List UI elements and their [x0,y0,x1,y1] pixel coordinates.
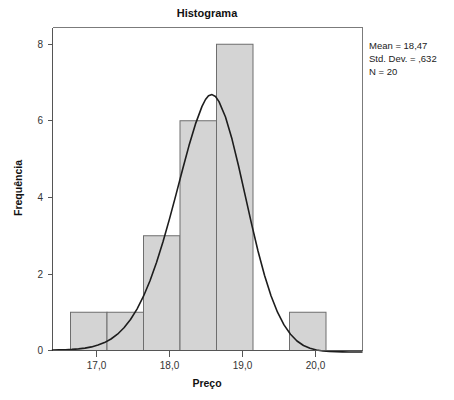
statistic-n: N = 20 [369,66,397,77]
statistic-std-dev: Std. Dev. = ,632 [369,53,437,64]
histogram-bar [144,236,181,351]
y-tick-label-0: 0 [37,345,43,356]
chart-canvas: Histograma 0 2 4 6 8 Frequência [0,0,454,400]
y-tick-label-2: 4 [37,192,43,203]
x-tick-label-1: 18,0 [160,360,180,371]
x-tick-label-2: 19,0 [233,360,253,371]
histogram-bar [217,44,254,350]
x-tick-label-3: 20,0 [306,360,326,371]
chart-title: Histograma [177,7,238,19]
y-tick-label-3: 6 [37,115,43,126]
histogram-bar [107,312,144,350]
histogram-bar [290,312,327,350]
statistic-mean: Mean = 18,47 [369,40,427,51]
x-axis-title: Preço [192,377,221,389]
x-tick-label-0: 17,0 [87,360,107,371]
y-tick-label-4: 8 [37,39,43,50]
y-tick-label-1: 2 [37,269,43,280]
y-axis-title: Frequência [12,160,24,216]
histogram-chart: Histograma 0 2 4 6 8 Frequência [0,0,454,400]
histogram-bar [180,121,217,351]
histogram-bar [71,312,108,350]
